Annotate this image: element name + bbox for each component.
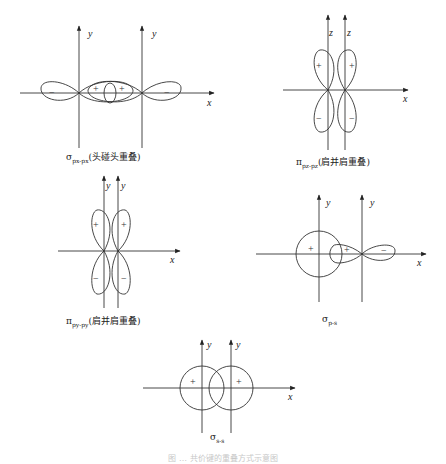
sign-label: − — [164, 87, 170, 98]
axis-label: y — [120, 180, 126, 191]
axis-label: y — [325, 197, 331, 208]
p-orbital-lobe-negative — [142, 82, 181, 101]
axis-label: y — [87, 28, 93, 39]
p-orbital-lobe-negative — [338, 90, 356, 132]
panel-sigma-p-s — [256, 195, 426, 302]
caption-subscript: py-py — [72, 321, 89, 328]
sign-label: + — [121, 219, 127, 230]
caption-subscript: s-s — [216, 437, 224, 444]
axis-label: y — [235, 339, 241, 350]
panel-sigma-s-s — [143, 340, 295, 433]
caption-pi-py-py: πpy-py(肩并肩重叠) — [66, 314, 140, 328]
sign-label: + — [316, 60, 322, 71]
sign-label: − — [381, 245, 387, 256]
sign-label: − — [121, 273, 127, 284]
sign-label: + — [190, 376, 196, 387]
caption-text: (肩并肩重叠) — [88, 316, 140, 326]
figure-caption: 图 … 共价键的重叠方式示意图 — [0, 452, 446, 463]
axis-label: z — [346, 27, 351, 38]
caption-subscript: px-px — [72, 157, 88, 164]
panel-pi-py-py — [58, 176, 180, 308]
sign-label: + — [119, 83, 125, 94]
p-orbital-lobe-positive — [92, 210, 110, 251]
caption-sigma-s-s: σs-s — [210, 432, 224, 444]
sign-label: + — [349, 60, 355, 71]
sign-label: + — [344, 244, 350, 255]
axis-label: x — [206, 97, 212, 108]
axis-label: x — [416, 257, 422, 268]
caption-sigma-px-px: σpx-px(头碰头重叠) — [66, 150, 141, 164]
axis-label: x — [402, 93, 408, 104]
p-orbital-lobe-negative — [314, 90, 334, 132]
p-orbital-lobe-negative — [41, 82, 79, 101]
sign-label: − — [93, 273, 99, 284]
sign-label: − — [49, 87, 55, 98]
axis-label: y — [206, 339, 212, 350]
p-orbital-lobe-positive — [112, 210, 130, 251]
sign-label: + — [93, 83, 99, 94]
sign-label: + — [93, 219, 99, 230]
axis-label: y — [369, 197, 375, 208]
caption-pi-pz-pz: πpz-pz(肩并肩重叠) — [296, 155, 370, 169]
sign-label: + — [308, 243, 314, 254]
orbital-overlap-diagram: y y x z z x y y x y y x y y x − + + − + … — [0, 0, 446, 464]
axis-label: z — [328, 27, 333, 38]
axis-label: x — [287, 391, 293, 402]
caption-subscript: pz-pz — [302, 162, 318, 169]
axis-label: y — [151, 28, 157, 39]
axis-label: y — [105, 180, 111, 191]
caption-sigma-p-s: σp-s — [322, 314, 337, 326]
sign-label: − — [349, 113, 355, 124]
caption-text: (肩并肩重叠) — [318, 157, 370, 167]
sign-label: − — [316, 113, 322, 124]
sign-label: + — [236, 376, 242, 387]
caption-text: (头碰头重叠) — [89, 152, 141, 162]
panel-pi-pz-pz — [283, 15, 408, 150]
axis-label: x — [169, 254, 175, 265]
p-orbital-lobe-negative — [362, 245, 395, 260]
caption-subscript: p-s — [328, 319, 337, 326]
p-orbital-lobe-positive — [79, 81, 133, 102]
